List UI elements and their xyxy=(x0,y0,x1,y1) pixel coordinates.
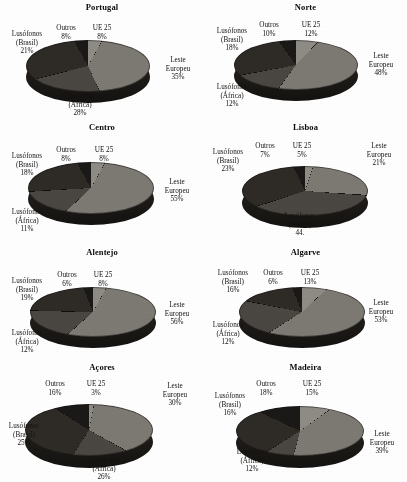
label-line: (Brasil) xyxy=(217,36,247,45)
label-line: Outros xyxy=(56,146,76,155)
chart-title: Alentejo xyxy=(0,247,204,257)
label-line: 15% xyxy=(303,389,322,398)
label-line: Lusófonos xyxy=(213,148,243,157)
label-line: (África) xyxy=(89,465,119,474)
label-line: Lusófonos xyxy=(217,27,247,36)
pie-label-lus-fonos-brasil: Lusófonos(Brasil)21% xyxy=(12,30,42,56)
label-line: UE 25 xyxy=(94,271,113,280)
chart-title: Lisboa xyxy=(204,122,407,132)
label-line: Lusófonos xyxy=(12,30,42,39)
label-line: Lusófonos xyxy=(12,208,42,217)
label-line: Leste xyxy=(166,56,190,65)
pie-slice-separators xyxy=(239,287,365,337)
label-line: (África) xyxy=(12,217,42,226)
label-line: Lusófonos xyxy=(237,448,267,457)
label-line: 13% xyxy=(301,278,320,287)
label-line: (África) xyxy=(285,221,315,230)
label-line: Outros xyxy=(259,21,279,30)
label-line: (África) xyxy=(65,101,95,110)
pie-label-ue-25: UE 2515% xyxy=(303,380,322,397)
pie-label-leste-europeu: LesteEuropeu53% xyxy=(369,299,393,325)
label-line: Lusófonos xyxy=(218,269,248,278)
label-line: 53% xyxy=(369,316,393,325)
label-line: Europeu xyxy=(165,310,189,319)
pie-label-ue-25: UE 258% xyxy=(94,271,113,288)
pie-label-outros: Outros6% xyxy=(57,271,77,288)
pie-label-outros: Outros16% xyxy=(45,380,65,397)
label-line: Europeu xyxy=(165,187,189,196)
label-line: Lusófonos xyxy=(12,277,42,286)
label-line: 18% xyxy=(217,44,247,53)
label-line: (Brasil) xyxy=(12,286,42,295)
label-line: UE 25 xyxy=(95,146,114,155)
pie-label-leste-europeu: LesteEuropeu21% xyxy=(367,142,391,168)
pie-label-outros: Outros6% xyxy=(263,269,283,286)
pie-chart-grid: PortugalUE 258%LesteEuropeu35%Lusófonos(… xyxy=(0,0,407,482)
pie-graphic xyxy=(28,162,154,225)
label-line: Outros xyxy=(56,24,76,33)
label-line: (Brasil) xyxy=(213,157,243,166)
chart-title: Madeira xyxy=(204,362,407,372)
pie-top-face xyxy=(234,40,358,90)
label-line: 8% xyxy=(56,155,76,164)
pie-label-outros: Outros7% xyxy=(255,142,275,159)
label-line: 11% xyxy=(12,225,42,234)
pie-label-leste-europeu: LesteEuropeu55% xyxy=(165,178,189,204)
label-line: Leste xyxy=(163,382,187,391)
label-line: 8% xyxy=(95,155,114,164)
label-line: Lusófonos xyxy=(89,456,119,465)
label-line: Leste xyxy=(369,52,393,61)
label-line: 12% xyxy=(213,338,243,347)
pie-label-ue-25: UE 258% xyxy=(93,24,112,41)
label-line: Outros xyxy=(256,380,276,389)
pie-label-lus-fonos-frica: Lusófonos(África)12% xyxy=(12,329,42,355)
label-line: 16% xyxy=(218,286,248,295)
pie-top-face xyxy=(242,166,368,216)
label-line: (Brasil) xyxy=(12,39,42,48)
label-line: (África) xyxy=(12,338,42,347)
label-line: Europeu xyxy=(370,439,394,448)
label-line: Outros xyxy=(263,269,283,278)
pie-label-leste-europeu: LesteEuropeu56% xyxy=(165,301,189,327)
chart-title: Algarve xyxy=(204,247,407,257)
pie-label-lus-fonos-frica: Lusófonos(África)26% xyxy=(89,456,119,482)
label-line: 18% xyxy=(12,169,42,178)
chart-title: Centro xyxy=(0,122,204,132)
pie-slice-separators xyxy=(234,40,358,90)
pie-graphic xyxy=(239,287,365,348)
label-line: Lusófonos xyxy=(213,321,243,330)
label-line: 5% xyxy=(293,151,312,160)
label-line: 12% xyxy=(237,465,267,474)
pie-chart-alentejo: AlentejoUE 258%LesteEuropeu56%Lusófonos(… xyxy=(0,245,204,360)
label-line: 25% xyxy=(9,439,39,448)
label-line: UE 25 xyxy=(301,269,320,278)
pie-label-lus-fonos-frica: Lusófonos(África)12% xyxy=(237,448,267,474)
label-line: 12% xyxy=(12,346,42,355)
pie-slice-separators xyxy=(26,40,150,92)
label-line: Leste xyxy=(370,430,394,439)
label-line: Outros xyxy=(255,142,275,151)
label-line: Europeu xyxy=(369,308,393,317)
pie-slice-separators xyxy=(242,166,368,216)
label-line: 26% xyxy=(89,473,119,482)
pie-label-leste-europeu: LesteEuropeu30% xyxy=(163,382,187,408)
pie-label-outros: Outros18% xyxy=(256,380,276,397)
pie-slice-separators xyxy=(28,162,154,214)
pie-label-lus-fonos-brasil: Lusófonos(Brasil)19% xyxy=(12,277,42,303)
pie-label-lus-fonos-brasil: Lusófonos(Brasil)25% xyxy=(9,422,39,448)
label-line: 30% xyxy=(163,399,187,408)
label-line: 16% xyxy=(215,409,245,418)
label-line: (Brasil) xyxy=(12,161,42,170)
pie-graphic xyxy=(30,287,156,348)
pie-chart-aores: AçoresUE 253%LesteEuropeu30%Lusófonos(Áf… xyxy=(0,360,204,482)
label-line: Lusófonos xyxy=(9,422,39,431)
pie-label-leste-europeu: LesteEuropeu35% xyxy=(166,56,190,82)
pie-label-lus-fonos-frica: Lusófonos(África)12% xyxy=(213,321,243,347)
label-line: 35% xyxy=(166,73,190,82)
label-line: 23% xyxy=(213,165,243,174)
pie-label-lus-fonos-brasil: Lusófonos(Brasil)16% xyxy=(218,269,248,295)
label-line: Leste xyxy=(165,178,189,187)
label-line: Europeu xyxy=(367,151,391,160)
label-line: Europeu xyxy=(166,65,190,74)
label-line: Lusófonos xyxy=(65,92,95,101)
